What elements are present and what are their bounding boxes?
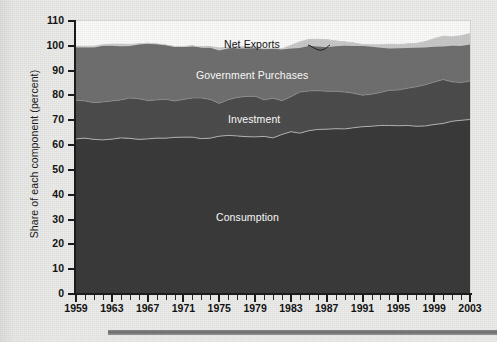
x-tick-mark-minor <box>210 295 211 300</box>
x-tick-mark-minor <box>345 295 346 300</box>
x-tick-mark-major <box>182 295 184 302</box>
y-tick-mark <box>68 293 74 295</box>
x-tick-mark-minor <box>300 295 301 300</box>
x-tick-mark-major <box>147 295 149 302</box>
x-tick-mark-minor <box>121 295 122 300</box>
x-tick-mark-major <box>433 295 435 302</box>
chart-canvas <box>76 21 470 294</box>
y-tick-label: 40 <box>24 189 64 200</box>
y-tick-label: 60 <box>24 139 64 150</box>
y-tick-label: 80 <box>24 89 64 100</box>
x-tick-mark-minor <box>228 295 229 300</box>
y-tick-label: 30 <box>24 214 64 225</box>
y-tick-mark <box>68 144 74 146</box>
x-tick-mark-minor <box>309 295 310 300</box>
y-tick-mark <box>68 268 74 270</box>
x-tick-mark-minor <box>425 295 426 300</box>
x-tick-label: 2003 <box>447 303 493 314</box>
x-tick-mark-minor <box>103 295 104 300</box>
y-tick-label: 70 <box>24 114 64 125</box>
y-tick-mark <box>68 20 74 22</box>
series-label-government-purchases: Government Purchases <box>196 69 308 81</box>
series-label-investment: Investment <box>228 113 280 125</box>
plot-area: Net Exports Government Purchases Investm… <box>76 21 470 294</box>
x-tick-mark-major <box>362 295 364 302</box>
y-tick-label: 20 <box>24 238 64 249</box>
y-tick-mark <box>68 169 74 171</box>
x-tick-mark-major <box>75 295 77 302</box>
x-tick-mark-minor <box>416 295 417 300</box>
x-tick-mark-minor <box>175 295 176 300</box>
x-tick-mark-minor <box>246 295 247 300</box>
x-tick-mark-minor <box>237 295 238 300</box>
y-tick-label: 90 <box>24 65 64 76</box>
stacked-area-chart-figure: Net Exports Government Purchases Investm… <box>0 0 497 342</box>
x-tick-mark-minor <box>282 295 283 300</box>
y-tick-mark <box>68 70 74 72</box>
x-tick-mark-minor <box>389 295 390 300</box>
x-tick-mark-minor <box>452 295 453 300</box>
x-tick-mark-minor <box>407 295 408 300</box>
x-tick-mark-minor <box>157 295 158 300</box>
x-tick-mark-minor <box>192 295 193 300</box>
y-tick-mark <box>68 45 74 47</box>
x-tick-mark-minor <box>336 295 337 300</box>
x-tick-mark-minor <box>139 295 140 300</box>
x-tick-mark-major <box>254 295 256 302</box>
x-tick-mark-minor <box>264 295 265 300</box>
x-tick-mark-major <box>397 295 399 302</box>
y-tick-label: 10 <box>24 263 64 274</box>
y-tick-mark <box>68 219 74 221</box>
y-tick-label: 0 <box>24 288 64 299</box>
x-tick-mark-minor <box>318 295 319 300</box>
x-tick-mark-major <box>469 295 471 302</box>
x-tick-mark-major <box>111 295 113 302</box>
x-tick-mark-minor <box>372 295 373 300</box>
area-band-consumption <box>76 120 470 294</box>
x-tick-mark-minor <box>166 295 167 300</box>
x-tick-mark-major <box>326 295 328 302</box>
x-tick-mark-minor <box>85 295 86 300</box>
y-tick-mark <box>68 243 74 245</box>
series-label-consumption: Consumption <box>216 211 279 223</box>
x-tick-mark-minor <box>130 295 131 300</box>
series-label-net-exports: Net Exports <box>224 38 280 50</box>
x-tick-mark-major <box>218 295 220 302</box>
y-tick-mark <box>68 194 74 196</box>
bottom-decorative-rule <box>108 330 497 335</box>
x-tick-mark-major <box>290 295 292 302</box>
x-tick-mark-minor <box>94 295 95 300</box>
y-tick-label: 110 <box>24 15 64 26</box>
y-tick-label: 100 <box>24 40 64 51</box>
y-axis-line <box>74 20 76 295</box>
x-tick-mark-minor <box>461 295 462 300</box>
y-tick-label: 50 <box>24 164 64 175</box>
x-tick-mark-minor <box>201 295 202 300</box>
x-tick-mark-minor <box>354 295 355 300</box>
y-tick-mark <box>68 119 74 121</box>
x-tick-mark-minor <box>273 295 274 300</box>
x-tick-mark-minor <box>380 295 381 300</box>
y-tick-mark <box>68 94 74 96</box>
x-tick-mark-minor <box>443 295 444 300</box>
